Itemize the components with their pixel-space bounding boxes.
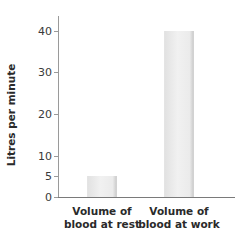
y-tick-label: 10 [38,150,52,163]
y-tick [54,197,58,198]
x-axis-line [58,197,235,198]
y-tick [54,72,58,73]
y-axis-title: Litres per minute [5,64,17,167]
y-tick [54,176,58,177]
y-tick-label: 30 [38,66,52,79]
y-axis-line [58,16,59,198]
y-tick-label: 20 [38,108,52,121]
y-tick-label: 5 [45,170,52,183]
x-category-label-line: Volume of [134,205,224,218]
bar-rest [87,176,117,197]
bar-work [164,31,194,197]
y-tick-label: 40 [38,25,52,38]
x-category-label: Volume ofblood at work [134,205,224,231]
y-tick [54,114,58,115]
y-tick [54,31,58,32]
x-category-label-line: blood at work [134,218,224,231]
y-tick-label: 0 [45,191,52,204]
y-tick [54,156,58,157]
bar-chart: Litres per minute 0510203040 Volume ofbl… [0,0,249,240]
